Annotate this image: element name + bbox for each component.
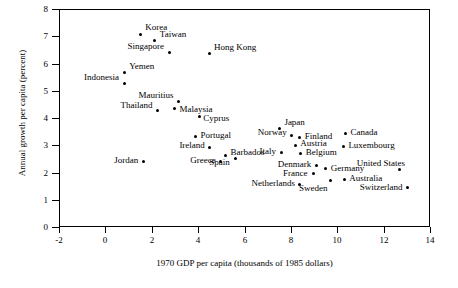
data-point-label: Sweden (299, 184, 328, 193)
data-point-label: Germany (331, 164, 365, 173)
y-axis-tick-label-wrap: 1 (0, 196, 48, 205)
x-axis-tick-label: 0 (85, 236, 125, 245)
x-axis-tick-label: 6 (225, 236, 265, 245)
x-axis-tick-label: 2 (132, 236, 172, 245)
x-axis-tick-label: 4 (178, 236, 218, 245)
data-point (219, 160, 222, 163)
data-point-label: France (283, 169, 308, 178)
y-axis-tick-label-wrap: 8 (0, 5, 48, 14)
y-axis-tick-label: 7 (8, 32, 48, 41)
data-point-label: Hong Kong (214, 43, 256, 52)
y-axis-tick-label-wrap: 6 (0, 60, 48, 69)
y-axis-tick (52, 227, 59, 228)
y-axis-tick-label-wrap: 0 (0, 223, 48, 232)
data-point (342, 145, 345, 148)
data-point (406, 186, 409, 189)
data-point (173, 107, 176, 110)
data-point (142, 160, 145, 163)
data-point-label: Jordan (114, 156, 138, 165)
y-axis-tick-label: 1 (8, 196, 48, 205)
data-point (123, 71, 126, 74)
data-point (294, 144, 297, 147)
y-axis-tick (52, 36, 59, 37)
data-point (208, 52, 211, 55)
data-point-label: Indonesia (84, 73, 119, 82)
x-axis-tick-label: 14 (410, 236, 450, 245)
data-point-label: Ireland (179, 141, 204, 150)
x-axis-tick-label: 10 (317, 236, 357, 245)
data-point (329, 179, 332, 182)
y-axis-tick-label: 4 (8, 114, 48, 123)
y-axis-tick (52, 64, 59, 65)
data-point-label: Japan (284, 118, 305, 127)
data-point-label: Portugal (200, 131, 231, 140)
x-axis-tick (152, 227, 153, 233)
y-axis-tick (52, 91, 59, 92)
data-point (123, 82, 126, 85)
y-axis-tick-label-wrap: 5 (0, 87, 48, 96)
y-axis-tick (52, 200, 59, 201)
x-axis-tick (384, 227, 385, 233)
data-point-label: Canada (350, 128, 377, 137)
data-point (198, 115, 201, 118)
x-axis-tick-label: 8 (271, 236, 311, 245)
x-axis-tick (59, 227, 60, 233)
x-axis-tick (198, 227, 199, 233)
y-axis-tick-label-wrap: 2 (0, 169, 48, 178)
x-axis-tick-label: -2 (39, 236, 79, 245)
x-axis-tick-label: 12 (364, 236, 404, 245)
data-point (194, 135, 197, 138)
x-axis-title: 1970 GDP per capita (thousands of 1985 d… (59, 258, 430, 268)
y-axis-tick-label: 2 (8, 169, 48, 178)
data-point-label: Greece (190, 156, 215, 165)
data-point (139, 33, 142, 36)
scatter-chart-figure: Annual growth per capita (percent) 1970 … (0, 0, 458, 288)
data-point-label: Yemen (129, 62, 154, 71)
y-axis-tick (52, 118, 59, 119)
y-axis-tick-label-wrap: 4 (0, 114, 48, 123)
data-point-label: Switzerland (360, 183, 403, 192)
x-axis-tick (337, 227, 338, 233)
x-axis-tick (430, 227, 431, 233)
y-axis-tick-label-wrap: 7 (0, 32, 48, 41)
y-axis-tick-label-wrap: 3 (0, 141, 48, 150)
data-point-label: Taiwan (160, 30, 186, 39)
data-point-label: Cyprus (203, 114, 229, 123)
data-point-label: Norway (258, 128, 287, 137)
data-point-label: Singapore (128, 42, 165, 51)
x-axis-tick (105, 227, 106, 233)
x-axis-tick (245, 227, 246, 233)
data-point-label: Belgium (306, 148, 337, 157)
y-axis-tick-label: 5 (8, 87, 48, 96)
y-axis-tick (52, 9, 59, 10)
data-point-label: Netherlands (252, 179, 295, 188)
y-axis-tick-label: 6 (8, 60, 48, 69)
data-point-label: Thailand (120, 101, 152, 110)
y-axis-tick-label: 0 (8, 223, 48, 232)
y-axis-tick-label: 8 (8, 5, 48, 14)
data-point-label: Luxembourg (348, 141, 394, 150)
data-point (208, 146, 211, 149)
y-axis-tick (52, 173, 59, 174)
data-point-label: Barbados (231, 148, 265, 157)
y-axis-tick-label: 3 (8, 141, 48, 150)
x-axis-tick (291, 227, 292, 233)
y-axis-tick (52, 145, 59, 146)
data-point-label: Mauritius (139, 91, 174, 100)
